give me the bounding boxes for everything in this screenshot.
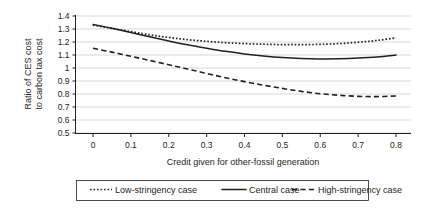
y-tick-label: 0.5 (58, 128, 70, 138)
legend-label: Low-stringency case (115, 185, 197, 195)
x-tick-label: 0.5 (276, 140, 288, 150)
x-tick-label: 0 (91, 140, 96, 150)
x-axis-tick-labels: 00.10.20.30.40.50.60.70.8 (91, 140, 403, 150)
y-tick-label: 0.7 (58, 102, 70, 112)
x-axis-title: Credit given for other-fossil generation (167, 157, 320, 167)
x-tick-label: 0.2 (163, 140, 175, 150)
y-tick-label: 0.6 (58, 115, 70, 125)
series-line-solid (93, 24, 396, 58)
x-tick-label: 0.8 (390, 140, 402, 150)
gridlines-group (76, 16, 412, 133)
y-tick-label: 1.2 (58, 37, 70, 47)
x-tick-label: 0.3 (201, 140, 213, 150)
y-tick-label: 1.3 (58, 24, 70, 34)
legend-group: Low-stringency caseCentral caseHigh-stri… (90, 185, 402, 195)
y-tick-label: 0.8 (58, 89, 70, 99)
chart-figure: 0.50.60.70.80.911.11.21.31.4 00.10.20.30… (0, 0, 434, 214)
legend-label: High-stringency case (318, 185, 402, 195)
y-axis-tick-labels: 0.50.60.70.80.911.11.21.31.4 (58, 11, 70, 138)
y-tick-label: 1.4 (58, 11, 70, 21)
x-tick-label: 0.7 (352, 140, 364, 150)
x-tick-label: 0.6 (314, 140, 326, 150)
series-lines-group (93, 24, 396, 96)
x-tick-label: 0.4 (239, 140, 251, 150)
y-tick-label: 0.9 (58, 76, 70, 86)
chart-canvas: 0.50.60.70.80.911.11.21.31.4 00.10.20.30… (0, 0, 434, 214)
y-tick-label: 1.1 (58, 50, 70, 60)
y-tick-label: 1 (65, 63, 70, 73)
legend-label: Central case (249, 185, 300, 195)
y-axis-title-line2: to carbon tax cost (34, 38, 44, 110)
x-tick-marks-group (93, 134, 396, 138)
x-tick-label: 0.1 (125, 140, 137, 150)
series-line-dashed (93, 48, 396, 96)
y-axis-title-line1: Ratio of CES cost (23, 38, 33, 110)
